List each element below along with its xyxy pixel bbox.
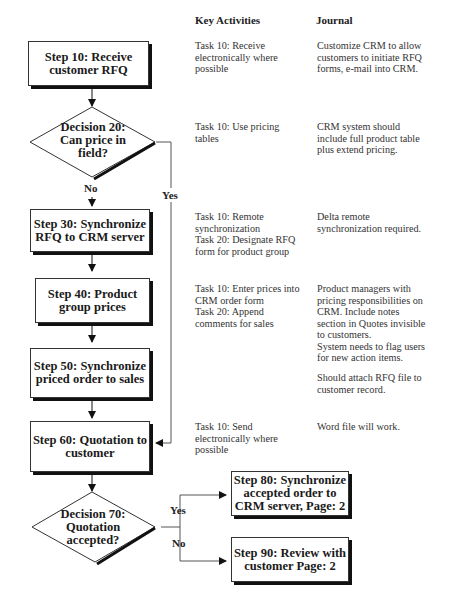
step-30-box: Step 30: Synchronize RFQ to CRM server bbox=[30, 209, 150, 252]
journal-step-60: Word file will work. bbox=[317, 421, 447, 433]
journal-header: Journal bbox=[316, 14, 353, 26]
decision-20-label: Decision 20: Can price in field? bbox=[52, 121, 134, 160]
journal-step-30: Delta remote synchronization required. bbox=[317, 211, 447, 234]
decision-70-no-label: No bbox=[172, 537, 185, 549]
decision-20-yes-label: Yes bbox=[162, 188, 178, 202]
step-90-label: Step 90: Review with customer Page: 2 bbox=[232, 547, 348, 573]
journal-step-50: Should attach RFQ file to customer recor… bbox=[317, 372, 447, 395]
key-activity-step-30: Task 10: Remote synchronization Task 20:… bbox=[195, 211, 315, 257]
step-10-box: Step 10: Receive customer RFQ bbox=[28, 41, 149, 86]
step-30-label: Step 30: Synchronize RFQ to CRM server bbox=[31, 218, 149, 244]
key-activity-step-60: Task 10: Send electronically where possi… bbox=[195, 421, 315, 456]
journal-decision-20: CRM system should include full product t… bbox=[317, 121, 447, 156]
decision-70-label: Decision 70: Quotation accepted? bbox=[52, 508, 134, 547]
step-50-box: Step 50: Synchronize priced order to sal… bbox=[30, 348, 150, 398]
step-10-label: Step 10: Receive customer RFQ bbox=[29, 51, 148, 77]
journal-step-40: Product managers with pricing responsibi… bbox=[317, 283, 447, 364]
step-80-label: Step 80: Synchronize accepted order to C… bbox=[232, 474, 348, 513]
key-activity-step-10: Task 10: Receive electronically where po… bbox=[195, 40, 315, 75]
key-activity-step-40: Task 10: Enter prices into CRM order for… bbox=[195, 283, 320, 329]
step-60-box: Step 60: Quotation to customer bbox=[30, 421, 150, 472]
step-90-box: Step 90: Review with customer Page: 2 bbox=[231, 537, 349, 582]
step-40-box: Step 40: Product group prices bbox=[35, 278, 150, 323]
decision-20-no-label: No bbox=[84, 182, 97, 194]
step-40-label: Step 40: Product group prices bbox=[36, 288, 149, 314]
key-activities-header: Key Activities bbox=[195, 14, 260, 26]
step-80-box: Step 80: Synchronize accepted order to C… bbox=[231, 471, 349, 516]
decision-70-yes-label: Yes bbox=[170, 504, 186, 516]
journal-step-10: Customize CRM to allow customers to init… bbox=[317, 40, 447, 75]
step-50-label: Step 50: Synchronize priced order to sal… bbox=[31, 360, 149, 386]
step-60-label: Step 60: Quotation to customer bbox=[31, 434, 149, 460]
key-activity-decision-20: Task 10: Use pricing tables bbox=[195, 121, 315, 144]
